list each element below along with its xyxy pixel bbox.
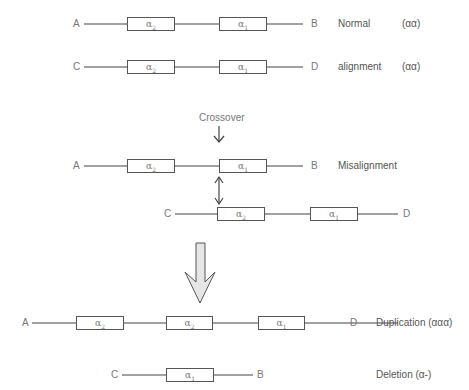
normal-label: Normal bbox=[338, 18, 370, 30]
gene-alpha2: α2 bbox=[166, 316, 213, 330]
gene-alpha1: α1 bbox=[219, 159, 267, 173]
crossover-label: Crossover bbox=[199, 112, 245, 124]
gene-alpha1: α1 bbox=[166, 368, 214, 382]
end-label-a: A bbox=[73, 18, 80, 30]
big-down-arrow bbox=[185, 243, 215, 303]
end-label-a: A bbox=[73, 160, 80, 172]
end-label-c: C bbox=[164, 208, 171, 220]
gene-alpha2: α2 bbox=[127, 159, 175, 173]
misalignment-label: Misalignment bbox=[338, 160, 397, 172]
gene-alpha1: α1 bbox=[258, 316, 305, 330]
gene-alpha2: α2 bbox=[127, 60, 175, 74]
gene-alpha2: α2 bbox=[76, 316, 124, 330]
gene-alpha1: α1 bbox=[310, 207, 358, 221]
gene-alpha1: α1 bbox=[219, 17, 267, 31]
deletion-label: Deletion (α-) bbox=[376, 369, 431, 381]
genotype-aa: (αα) bbox=[402, 18, 420, 30]
gene-alpha2: α2 bbox=[217, 207, 265, 221]
diagram-lines bbox=[0, 0, 469, 390]
gene-alpha2: α2 bbox=[127, 17, 175, 31]
end-label-d: D bbox=[350, 317, 357, 329]
end-label-c: C bbox=[111, 369, 118, 381]
alignment-label: alignment bbox=[338, 61, 381, 73]
duplication-label: Duplication (ααα) bbox=[376, 317, 452, 329]
genotype-aa: (αα) bbox=[402, 61, 420, 73]
end-label-b: B bbox=[257, 369, 264, 381]
end-label-b: B bbox=[311, 18, 318, 30]
end-label-a: A bbox=[22, 317, 29, 329]
end-label-d: D bbox=[403, 208, 410, 220]
gene-alpha1: α1 bbox=[219, 60, 267, 74]
end-label-c: C bbox=[73, 61, 80, 73]
end-label-d: D bbox=[311, 61, 318, 73]
end-label-b: B bbox=[311, 160, 318, 172]
